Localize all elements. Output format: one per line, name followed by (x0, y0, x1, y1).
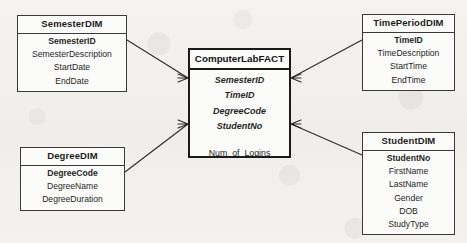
attribute-primary-key: TimeID (366, 34, 451, 47)
entity-semesterdim[interactable]: SemesterDIM SemesterID SemesterDescripti… (17, 15, 127, 92)
relationship-line-student-fact (291, 120, 362, 155)
attribute-list-semesterdim: SemesterID SemesterDescription StartDate… (18, 34, 126, 91)
attribute-primary-key: DegreeCode (24, 167, 121, 180)
entity-timeperioddim[interactable]: TimePeriodDIM TimeID TimeDescription Sta… (362, 14, 455, 91)
foreign-key-item: SemesterID (190, 73, 289, 88)
attribute-item: StudyType (366, 218, 451, 231)
relationship-line-timeperiod-fact (291, 40, 362, 82)
entity-computerlabfact[interactable]: ComputerLabFACT SemesterID TimeID Degree… (188, 48, 291, 158)
attribute-item: DOB (366, 205, 451, 218)
entity-title-degreedim: DegreeDIM (21, 148, 124, 166)
entity-degreedim[interactable]: DegreeDIM DegreeCode DegreeName DegreeDu… (20, 147, 125, 211)
attribute-primary-key: SemesterID (21, 35, 123, 48)
attribute-item: TimeDescription (366, 47, 451, 60)
foreign-key-item: TimeID (190, 88, 289, 103)
entity-title-timeperioddim: TimePeriodDIM (363, 15, 454, 33)
attribute-item: StartTime (366, 60, 451, 73)
relationship-line-degree-fact (125, 120, 188, 172)
attribute-item: Gender (366, 192, 451, 205)
measure-item: Num_of_Logins (190, 147, 289, 160)
entity-title-studentdim: StudentDIM (363, 133, 454, 151)
entity-studentdim[interactable]: StudentDIM StudentNo FirstName LastName … (362, 132, 455, 235)
foreign-key-item: StudentNo (190, 119, 289, 134)
attribute-item: FirstName (366, 165, 451, 178)
relationship-line-semester-fact (127, 40, 188, 82)
attribute-list-timeperioddim: TimeID TimeDescription StartTime EndTime (363, 33, 454, 90)
attribute-item: StartDate (21, 61, 123, 74)
attribute-item: EndDate (21, 75, 123, 88)
attribute-list-computerlabfact: SemesterID TimeID DegreeCode StudentNo N… (190, 70, 289, 160)
attribute-item: DegreeName (24, 180, 121, 193)
attribute-item: DegreeDuration (24, 193, 121, 206)
foreign-key-item: DegreeCode (190, 104, 289, 119)
attribute-list-degreedim: DegreeCode DegreeName DegreeDuration (21, 166, 124, 210)
attribute-list-studentdim: StudentNo FirstName LastName Gender DOB … (363, 151, 454, 234)
attribute-item: EndTime (366, 74, 451, 87)
attribute-primary-key: StudentNo (366, 152, 451, 165)
attribute-item: SemesterDescription (21, 48, 123, 61)
attribute-item: LastName (366, 178, 451, 191)
entity-title-semesterdim: SemesterDIM (18, 16, 126, 34)
entity-title-computerlabfact: ComputerLabFACT (190, 50, 289, 70)
